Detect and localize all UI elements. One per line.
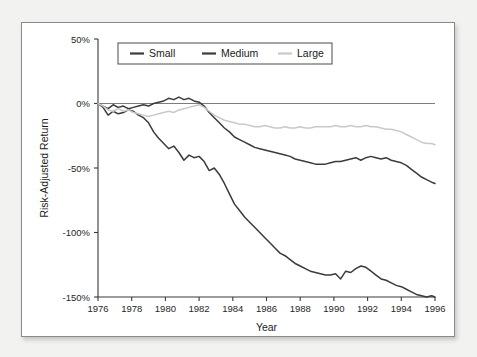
x-tick-label: 1982 bbox=[189, 303, 210, 314]
y-tick-label: 50% bbox=[71, 34, 91, 45]
y-tick-label: -100% bbox=[63, 227, 91, 238]
legend-label-small: Small bbox=[149, 47, 175, 59]
x-tick-label: 1978 bbox=[121, 303, 142, 314]
y-tick-label: -50% bbox=[68, 163, 91, 174]
chart-legend: SmallMediumLarge bbox=[118, 43, 332, 64]
x-tick-label: 1988 bbox=[290, 303, 311, 314]
y-axis-title: Risk-Adjusted Return bbox=[38, 118, 50, 217]
axis-spines bbox=[98, 39, 435, 297]
y-tick-label: -150% bbox=[63, 292, 91, 303]
chart-card: 50%0%-50%-100%-150%197619781980198219841… bbox=[21, 22, 455, 337]
plot-area: 50%0%-50%-100%-150%197619781980198219841… bbox=[38, 34, 446, 334]
x-tick-label: 1992 bbox=[357, 303, 378, 314]
y-tick-label: 0% bbox=[76, 98, 90, 109]
x-axis-title: Year bbox=[256, 321, 278, 333]
x-tick-label: 1980 bbox=[155, 303, 176, 314]
legend-label-medium: Medium bbox=[221, 47, 259, 59]
series-line-small bbox=[98, 104, 435, 298]
x-tick-label: 1990 bbox=[323, 303, 344, 314]
x-tick-label: 1996 bbox=[424, 303, 445, 314]
legend-label-large: Large bbox=[297, 47, 324, 59]
x-tick-label: 1976 bbox=[87, 303, 108, 314]
risk-adjusted-return-line-chart: 50%0%-50%-100%-150%197619781980198219841… bbox=[22, 23, 456, 338]
x-tick-label: 1986 bbox=[256, 303, 277, 314]
series-line-medium bbox=[98, 97, 435, 183]
x-tick-label: 1984 bbox=[222, 303, 243, 314]
x-tick-label: 1994 bbox=[391, 303, 412, 314]
